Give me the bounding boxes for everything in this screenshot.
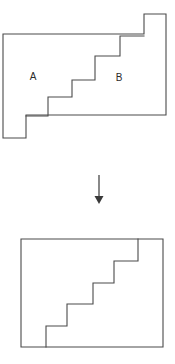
top-figure-group: A B [3,14,166,138]
bottom-shape-outline [21,239,163,347]
staircase-dissection-figure: A B [0,0,175,364]
piece-a-label: A [30,71,37,82]
piece-b-label: B [116,72,123,83]
bottom-figure-group [21,239,163,347]
top-shape-outline [3,14,166,138]
arrow-head-icon [95,196,104,204]
transformation-arrow [95,175,104,204]
figure-root: A B [0,0,175,364]
